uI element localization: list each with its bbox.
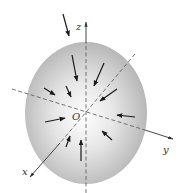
y-axis-label: y [162, 144, 169, 155]
origin-label: O [72, 111, 80, 122]
diagram-canvas: O z y x [0, 0, 180, 193]
z-axis-label: z [75, 21, 82, 32]
arrow-icon [63, 14, 69, 36]
x-axis-label: x [22, 166, 28, 177]
